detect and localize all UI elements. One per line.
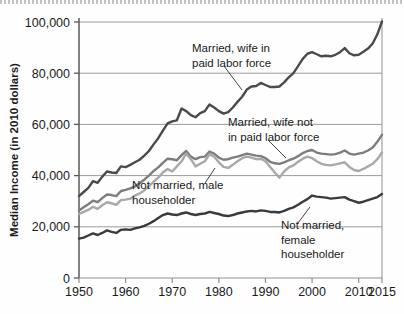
x-axis-tick-labels: 19501960197019801990200020102015 — [65, 285, 396, 299]
chart-figure: 020,00040,00060,00080,000100,000 1950196… — [0, 0, 404, 314]
x-tick-label-2015: 2015 — [368, 285, 396, 299]
ann-not-married-male-line-1: householder — [132, 194, 195, 206]
x-tick-label-2000: 2000 — [298, 285, 326, 299]
ann-not-married-female-line-0: Not married, — [281, 219, 344, 231]
ann-married-wife-in-labor-line-0: Married, wife in — [192, 42, 270, 54]
x-axis-ticks — [79, 278, 382, 283]
ann-married-wife-in-labor-line-1: paid labor force — [192, 57, 271, 69]
y-tick-label-20000: 20,000 — [32, 220, 70, 234]
y-tick-label-40000: 40,000 — [32, 169, 70, 183]
y-tick-label-0: 0 — [63, 272, 70, 286]
x-tick-label-1980: 1980 — [205, 285, 233, 299]
x-tick-label-1990: 1990 — [252, 285, 280, 299]
ann-not-married-female-line-2: householder — [281, 248, 344, 260]
ann-not-married-male: Not married, malehouseholder — [132, 168, 223, 206]
ann-not-married-female-line-1: female — [281, 234, 316, 246]
ann-married-wife-not-in-labor-line-0: Married, wife not — [228, 116, 314, 128]
scan-edge-artifact — [0, 0, 404, 4]
x-tick-label-1970: 1970 — [158, 285, 186, 299]
x-tick-label-1950: 1950 — [65, 285, 93, 299]
ann-not-married-female: Not married,femalehouseholder — [281, 207, 344, 260]
ann-married-wife-in-labor-leader — [224, 66, 242, 90]
ann-not-married-male-line-0: Not married, male — [132, 179, 223, 191]
y-tick-label-100000: 100,000 — [25, 16, 70, 30]
ann-married-wife-not-in-labor-line-1: in paid labor force — [228, 131, 319, 143]
series-line-2 — [79, 153, 382, 214]
income-line-chart: 020,00040,00060,00080,000100,000 1950196… — [0, 0, 404, 314]
y-tick-label-80000: 80,000 — [32, 67, 70, 81]
y-tick-label-60000: 60,000 — [32, 118, 70, 132]
y-axis-tick-labels: 020,00040,00060,00080,000100,000 — [25, 16, 79, 286]
y-axis-label: Median Income (in 2010 dollars) — [8, 63, 20, 237]
x-tick-label-1960: 1960 — [112, 285, 140, 299]
ann-married-wife-not-in-labor-leader — [268, 140, 286, 158]
